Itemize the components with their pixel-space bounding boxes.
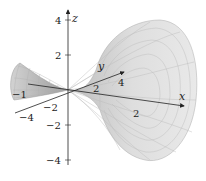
z-tick-2: 2 <box>55 50 61 61</box>
y-tick-m4: −4 <box>19 112 34 123</box>
x-axis-label: x <box>179 90 186 103</box>
z-axis-label: z <box>71 12 78 25</box>
x-tick-2: 2 <box>133 108 139 119</box>
z-axis <box>65 10 71 165</box>
right-funnel <box>68 20 197 161</box>
surface-plot: z y x 4 2 −2 −4 4 2 −2 −4 2 −1 <box>0 0 206 181</box>
y-tick-m2: −2 <box>43 102 58 113</box>
z-tick-4: 4 <box>55 15 61 26</box>
z-tick-m4: −4 <box>46 155 61 166</box>
x-tick-m1: −1 <box>12 89 27 100</box>
z-tick-m2: −2 <box>46 120 61 131</box>
y-tick-4: 4 <box>118 77 124 88</box>
y-axis-label: y <box>97 60 105 73</box>
y-tick-2: 2 <box>93 83 99 94</box>
